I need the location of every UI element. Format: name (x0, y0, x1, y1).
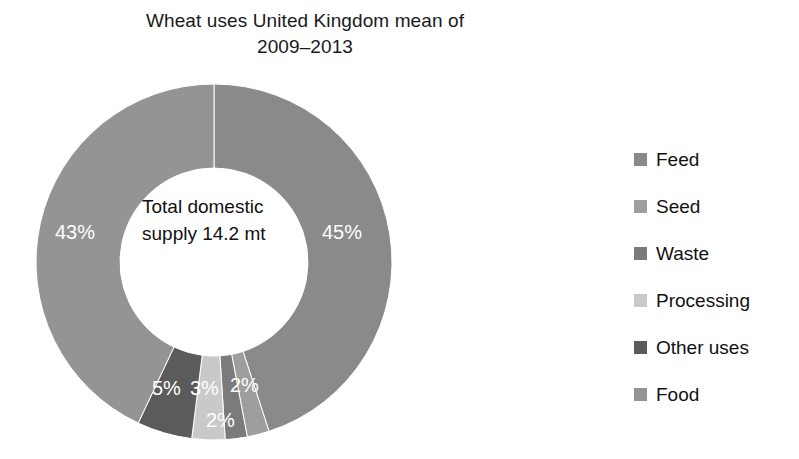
legend-item-label: Food (656, 384, 699, 406)
legend-swatch-icon (634, 153, 647, 166)
legend-swatch-icon (634, 200, 647, 213)
legend-item-label: Other uses (656, 337, 749, 359)
legend-item-label: Seed (656, 196, 700, 218)
legend-item-processing[interactable]: Processing (634, 277, 794, 324)
donut-slice-group (36, 84, 392, 440)
legend-item-other-uses[interactable]: Other uses (634, 324, 794, 371)
legend-item-waste[interactable]: Waste (634, 230, 794, 277)
donut-chart (36, 84, 392, 440)
legend-item-label: Waste (656, 243, 709, 265)
chart-title: Wheat uses United Kingdom mean of 2009–2… (0, 8, 610, 60)
legend-swatch-icon (634, 247, 647, 260)
legend-item-food[interactable]: Food (634, 371, 794, 418)
legend-item-seed[interactable]: Seed (634, 183, 794, 230)
legend-swatch-icon (634, 294, 647, 307)
chart-legend: FeedSeedWasteProcessingOther usesFood (634, 136, 794, 418)
legend-swatch-icon (634, 388, 647, 401)
legend-item-label: Processing (656, 290, 750, 312)
legend-item-label: Feed (656, 149, 699, 171)
donut-chart-svg (36, 84, 392, 440)
legend-swatch-icon (634, 341, 647, 354)
legend-item-feed[interactable]: Feed (634, 136, 794, 183)
